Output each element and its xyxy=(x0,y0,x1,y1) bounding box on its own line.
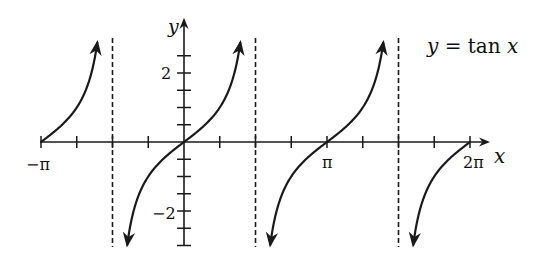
tan-chart: y x −π π 2π 2 −2 y = tan x xyxy=(0,0,534,258)
tan-branch xyxy=(41,43,97,142)
y-axis-label: y xyxy=(167,15,179,37)
tick-label-y-2: 2 xyxy=(161,64,171,83)
tick-label-neg-pi: −π xyxy=(26,155,50,174)
tick-label-y-neg2: −2 xyxy=(152,204,176,223)
x-axis-label: x xyxy=(494,144,505,168)
axes xyxy=(40,20,488,246)
tick-label-pi: π xyxy=(322,153,333,172)
tick-label-2pi: 2π xyxy=(463,153,484,172)
tan-branch xyxy=(413,142,470,245)
equation-label: y = tan x xyxy=(426,34,518,58)
